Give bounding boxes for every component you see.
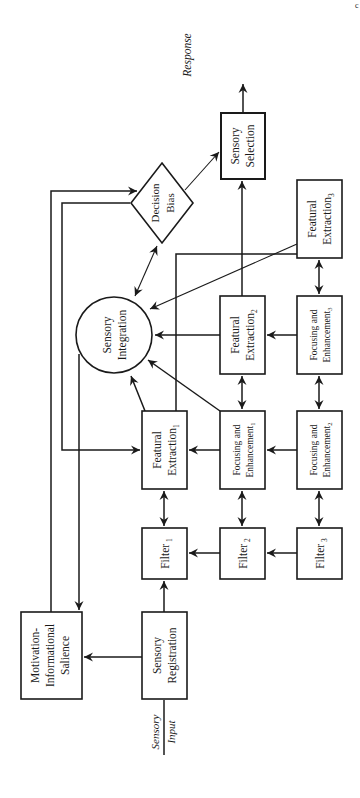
filter2-sub: 2: [243, 538, 252, 542]
focusing3-line2: Enhancement: [322, 310, 332, 362]
focusing1-line1: Focusing and: [232, 424, 242, 475]
node-focusing-enhancement-2: Focusing and Enhancement2: [297, 411, 342, 489]
integration-line2: Integration: [116, 310, 129, 361]
node-focusing-enhancement-1: Focusing and Enhancement1: [220, 411, 265, 489]
motivation-line3: Salience: [59, 636, 71, 675]
node-filter-2: Filter2: [220, 528, 265, 579]
sensory-processing-diagram: c: [0, 0, 360, 798]
selection-line2: Selection: [244, 124, 256, 167]
svg-text:Enhancement1: Enhancement1: [245, 423, 256, 478]
edge-featural1-integration: [131, 376, 145, 411]
filter1-sub: 1: [165, 538, 174, 542]
node-sensory-registration: Sensory Registration: [142, 612, 187, 699]
node-motivation-salience: Motivation- Informational Salience: [21, 612, 82, 699]
input-label-line2: Input: [165, 719, 177, 744]
integration-line1: Sensory: [101, 316, 114, 353]
page-mark: c: [355, 1, 359, 10]
node-featural-extraction-2: Featural Extraction2: [220, 296, 265, 374]
filter3-sub: 3: [320, 538, 329, 542]
edge-integration-decision: [135, 246, 157, 296]
filter2-label: Filter: [237, 544, 249, 569]
edge-focusing1-integration: [148, 360, 220, 411]
edge-motivation-decision: [51, 191, 137, 612]
focusing2-sub: 2: [326, 423, 333, 426]
featural1-line2: Extraction: [166, 428, 178, 476]
filter3-label: Filter: [314, 544, 326, 569]
svg-text:Enhancement3: Enhancement3: [322, 308, 333, 363]
svg-text:Enhancement2: Enhancement2: [322, 423, 333, 478]
featural1-line1: Featural: [151, 431, 163, 469]
focusing1-sub: 1: [249, 423, 256, 426]
focusing3-line1: Focusing and: [309, 309, 319, 360]
input-label-line1: Sensory: [149, 714, 161, 749]
focusing2-line2: Enhancement: [322, 425, 332, 477]
motivation-line2: Informational: [44, 624, 56, 687]
registration-line1: Sensory: [151, 637, 164, 674]
node-featural-extraction-3: Featural Extraction3: [297, 180, 342, 258]
featural3-line1: Featural: [306, 200, 318, 238]
input-label: Sensory Input: [149, 714, 177, 749]
node-focusing-enhancement-3: Focusing and Enhancement3: [297, 296, 342, 374]
response-label: Response: [181, 33, 194, 77]
output-label: Response: [181, 33, 194, 77]
node-decision-bias: Decision Bias: [131, 163, 193, 243]
focusing3-sub: 3: [326, 308, 333, 311]
motivation-line1: Motivation-: [29, 628, 41, 683]
featural3-line2: Extraction: [321, 197, 333, 245]
featural1-sub: 1: [172, 424, 181, 428]
node-filter-1: Filter1: [142, 528, 187, 579]
featural2-line1: Featural: [229, 316, 241, 354]
focusing2-line1: Focusing and: [309, 424, 319, 475]
featural3-sub: 3: [327, 193, 336, 197]
decision-line2: Bias: [164, 193, 176, 213]
featural2-sub: 2: [250, 309, 259, 313]
node-featural-extraction-1: Featural Extraction1: [142, 411, 187, 489]
featural2-line2: Extraction: [244, 313, 256, 361]
node-sensory-integration: Sensory Integration: [76, 297, 152, 373]
selection-line1: Sensory: [229, 127, 242, 164]
filter1-label: Filter: [159, 544, 171, 569]
node-filter-3: Filter3: [297, 528, 342, 579]
node-sensory-selection: Sensory Selection: [221, 113, 265, 179]
focusing1-line2: Enhancement: [245, 425, 255, 477]
registration-line2: Registration: [166, 627, 179, 683]
decision-line1: Decision: [149, 183, 161, 223]
edge-decision-selection: [185, 152, 219, 190]
